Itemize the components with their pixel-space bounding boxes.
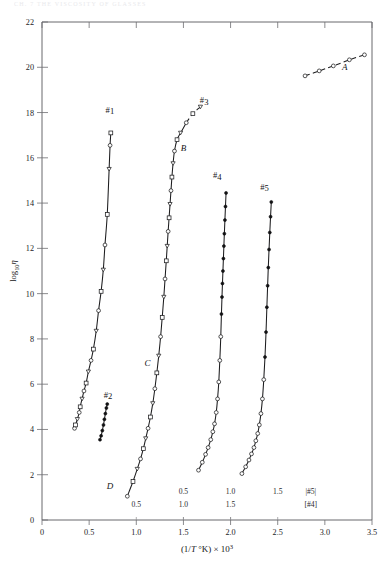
data-point-n1: [109, 131, 113, 135]
data-point-n5: [256, 432, 260, 436]
series-line-n3: [127, 123, 186, 497]
data-point-n5: [265, 331, 268, 334]
data-point-n5: [244, 465, 248, 469]
x-tick-label: 0: [40, 528, 44, 537]
data-point-n1: [86, 370, 90, 374]
y-tick-label: 6: [30, 380, 34, 389]
x-tick-label: 3.0: [320, 528, 330, 537]
data-point-n3: [162, 295, 166, 299]
data-point-n1: [108, 143, 112, 147]
annotation-n5: #5: [260, 182, 269, 193]
x-tick-label: 3.5: [367, 528, 377, 537]
y-tick-label: 12: [26, 244, 34, 253]
data-point-n5: [257, 423, 261, 427]
data-point-n5: [266, 284, 269, 287]
data-point-n1: [75, 418, 79, 422]
data-point-n4: [225, 191, 228, 194]
data-point-n3: [141, 447, 145, 451]
data-point-n3: [153, 387, 157, 391]
data-point-n5: [252, 446, 256, 450]
data-point-n5: [262, 378, 266, 382]
data-point-A: [331, 64, 335, 68]
data-point-n4: [206, 446, 210, 450]
data-point-n3: [144, 437, 148, 441]
data-point-n1: [84, 381, 88, 385]
data-point-n1: [94, 329, 98, 333]
data-point-n3: [125, 494, 129, 498]
y-tick-label: 18: [26, 109, 34, 118]
y-tick-label: 14: [26, 199, 34, 208]
data-point-n5: [269, 215, 272, 218]
data-point-n1: [89, 359, 93, 363]
data-point-n4: [222, 257, 225, 260]
data-point-n4: [200, 460, 204, 464]
data-point-n3: [169, 189, 173, 193]
data-point-n5: [240, 472, 244, 476]
x-axis-title: (1/T °K) × 103: [181, 543, 234, 554]
data-point-n3: [179, 131, 183, 135]
data-point-n5: [247, 458, 251, 462]
data-point-n3: [171, 162, 175, 166]
y-tick-label: 20: [26, 63, 34, 72]
y-tick-label: 0: [30, 516, 34, 525]
data-point-n4: [213, 422, 217, 426]
data-point-n3: [151, 402, 155, 406]
data-point-n3: [157, 354, 161, 358]
data-point-n4: [220, 296, 223, 299]
data-point-n5: [250, 452, 254, 456]
secondary-axis-tick-label: 1.5: [226, 500, 236, 509]
data-point-n2: [103, 418, 106, 421]
data-point-n2: [98, 438, 101, 441]
data-point-n4: [211, 430, 215, 434]
secondary-axis-name: [#4]: [304, 500, 317, 509]
data-point-n1: [107, 167, 111, 171]
data-point-n3: [135, 467, 139, 471]
data-point-n3: [149, 415, 153, 419]
data-point-n5: [268, 248, 271, 251]
data-point-n3: [146, 426, 150, 430]
data-point-n5: [261, 397, 265, 401]
figure-viscosity-plot: CH. 7 THE VISCOSITY OF GLASSES 024681012…: [0, 0, 388, 582]
data-point-n1: [103, 243, 107, 247]
data-point-n4: [219, 335, 223, 339]
data-point-n2: [104, 412, 107, 415]
data-point-n1: [80, 397, 84, 401]
data-point-n5: [254, 439, 258, 443]
data-point-n3: [167, 216, 171, 220]
data-point-n3: [165, 244, 169, 248]
secondary-axis-tick-label: 1.0: [179, 500, 189, 509]
annotation-B: B: [181, 143, 187, 153]
y-tick-label: 22: [26, 18, 34, 27]
data-point-n3: [170, 175, 174, 179]
data-point-n1: [97, 309, 101, 313]
data-point-n1: [101, 268, 105, 272]
data-point-A: [303, 74, 307, 78]
data-point-n2: [105, 406, 108, 409]
data-point-n3: [155, 371, 159, 375]
data-point-n3: [160, 316, 164, 320]
data-point-n3: [139, 457, 143, 461]
annotation-A: A: [341, 62, 348, 72]
data-point-n2: [100, 434, 103, 437]
data-point-n3: [168, 203, 172, 207]
data-point-n4: [220, 313, 223, 316]
data-point-n4: [218, 359, 222, 363]
data-point-n4: [224, 205, 227, 208]
secondary-axis-tick-label: 1.5: [273, 487, 283, 496]
data-point-n3: [163, 277, 167, 281]
data-point-n4: [204, 452, 208, 456]
y-tick-label: 8: [30, 335, 34, 344]
data-point-n5: [267, 266, 270, 269]
data-point-n1: [91, 347, 95, 351]
data-point-n4: [223, 232, 226, 235]
x-tick-label: 2.5: [273, 528, 283, 537]
secondary-axis-tick-label: 0.5: [179, 487, 189, 496]
annotation-D: D: [106, 481, 114, 491]
data-point-n1: [74, 423, 78, 427]
data-point-n1: [99, 289, 103, 293]
data-point-n4: [197, 468, 201, 472]
x-tick-label: 2.0: [225, 528, 235, 537]
y-tick-label: 10: [26, 290, 34, 299]
annotation-C: C: [145, 358, 152, 368]
y-axis-title: log10η: [8, 260, 20, 282]
